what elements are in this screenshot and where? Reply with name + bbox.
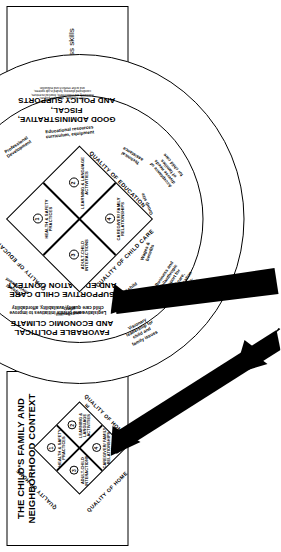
figure-root: THE CHILD'S FAMILY AND NEIGHBORHOOD CONT… [0,0,279,552]
outer-ring-right-fineprint: High standards, supportive policies, mon… [2,85,122,99]
outer-ring-right-title: GOOD ADMINISTRATIVE, FISCAL, AND POLICY … [6,96,126,124]
care-quadrant-2-number: 2 [69,178,79,188]
care-quadrant-1-number: 1 [32,214,42,224]
home-quadrant-2-number: 2 [67,421,76,430]
care-quadrant-3-number: 3 [69,250,79,260]
home-quadrant-1-number: 1 [47,444,56,453]
care-quadrant-2-label: LEARNING & LANGUAGE ACTIVITIES [80,155,89,211]
home-quadrant-4-number: 4 [92,444,101,453]
arrow-circle-to-family-box [110,326,279,456]
diagram-canvas: THE CHILD'S FAMILY AND NEIGHBORHOOD CONT… [0,0,279,552]
outer-ring-left-title: FAVORABLE POLITICAL AND ECONOMIC CLIMATE [1,319,121,338]
home-quadrant-3-number: 3 [69,466,78,475]
arrow-circle-to-outcomes-box [110,166,279,316]
care-quadrant-3-label: ADULT-CHILD INTERACTIONS [80,227,89,283]
care-quadrant-1-label: HEALTH & SAFETY PRACTICES [44,191,53,247]
